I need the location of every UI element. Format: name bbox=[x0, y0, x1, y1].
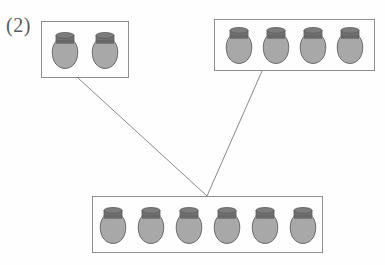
jar-row-top-right bbox=[215, 20, 374, 70]
jar-icon bbox=[174, 205, 204, 245]
jar-icon bbox=[98, 205, 128, 245]
jar-row-top-left bbox=[42, 22, 128, 77]
right-connector-line bbox=[207, 71, 262, 196]
group-box-top-left[interactable] bbox=[41, 21, 129, 78]
jar-icon bbox=[288, 205, 318, 245]
group-box-bottom-total[interactable] bbox=[92, 196, 323, 253]
group-box-top-right[interactable] bbox=[214, 19, 375, 71]
problem-number-label: (2) bbox=[6, 14, 31, 37]
diagram-canvas: (2) bbox=[0, 0, 385, 265]
jar-icon bbox=[261, 25, 291, 65]
jar-icon bbox=[50, 30, 80, 70]
jar-icon bbox=[136, 205, 166, 245]
jar-row-bottom-total bbox=[93, 197, 322, 252]
jar-icon bbox=[212, 205, 242, 245]
jar-icon bbox=[335, 25, 365, 65]
jar-icon bbox=[250, 205, 280, 245]
left-connector-line bbox=[78, 78, 207, 196]
jar-icon bbox=[90, 30, 120, 70]
jar-icon bbox=[224, 25, 254, 65]
jar-icon bbox=[298, 25, 328, 65]
